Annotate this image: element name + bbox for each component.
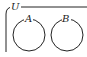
set-b-label: B	[61, 13, 69, 24]
set-a-label: A	[24, 13, 32, 24]
universal-set-border	[6, 7, 87, 52]
venn-diagram: U A B	[0, 0, 87, 57]
universal-set-label: U	[11, 1, 20, 12]
